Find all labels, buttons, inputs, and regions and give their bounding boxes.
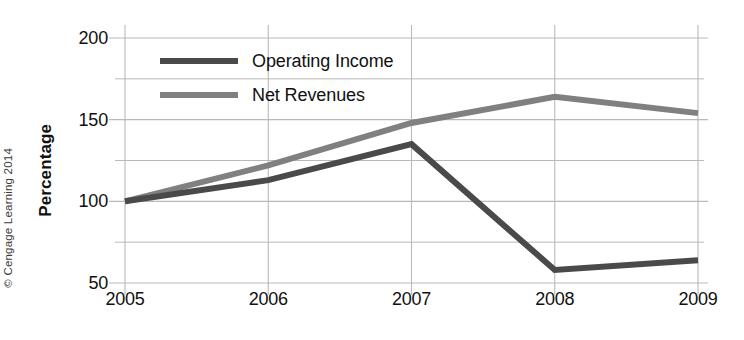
- legend-swatch-line-icon: [160, 58, 238, 64]
- legend-item: Operating Income: [160, 48, 393, 74]
- line-chart-figure: © Cengage Learning 2014 Percentage 20015…: [0, 0, 744, 340]
- x-axis-tick-labels: 20052006200720082009: [0, 289, 744, 319]
- legend-item: Net Revenues: [160, 82, 393, 108]
- legend-swatch-line-icon: [160, 92, 238, 98]
- chart-legend: Operating IncomeNet Revenues: [160, 48, 393, 108]
- legend-label: Net Revenues: [252, 85, 365, 106]
- legend-label: Operating Income: [252, 51, 393, 72]
- y-tick-label: 150: [50, 109, 108, 130]
- copyright-credit: © Cengage Learning 2014: [2, 148, 14, 288]
- y-tick-label: 200: [50, 28, 108, 49]
- y-tick-label: 100: [50, 191, 108, 212]
